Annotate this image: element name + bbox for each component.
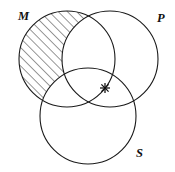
asterisk-point-icon bbox=[100, 83, 110, 93]
venn-diagram-canvas: M P S bbox=[0, 0, 175, 172]
shaded-region-m-only bbox=[0, 0, 175, 172]
set-label-p: P bbox=[157, 11, 165, 25]
venn-diagram-figure: M P S bbox=[0, 0, 175, 172]
set-label-m: M bbox=[17, 9, 30, 23]
set-label-s: S bbox=[136, 146, 143, 160]
